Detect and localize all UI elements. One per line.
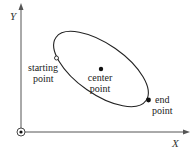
center-point-label-line1: center [88,72,113,83]
y-axis-arrow-icon [19,3,24,10]
center-point-label-line2: point [90,83,111,94]
x-axis [21,130,190,135]
x-axis-label: X [171,137,180,149]
x-axis-arrow-icon [183,130,190,135]
starting-point-marker-icon [55,56,59,60]
origin-marker-icon [17,128,25,136]
center-point-marker-icon [99,67,103,71]
end-point-label-line1: end [155,94,169,105]
starting-point-label-line2: point [33,73,54,84]
y-axis [19,3,24,132]
end-point-marker-icon [146,98,151,103]
end-point-label-line2: point [152,105,173,116]
ellipse-arc-diagram: Y X starting point center point end poin… [0,0,196,155]
y-axis-label: Y [10,10,18,22]
starting-point-label-line1: starting [28,62,58,73]
